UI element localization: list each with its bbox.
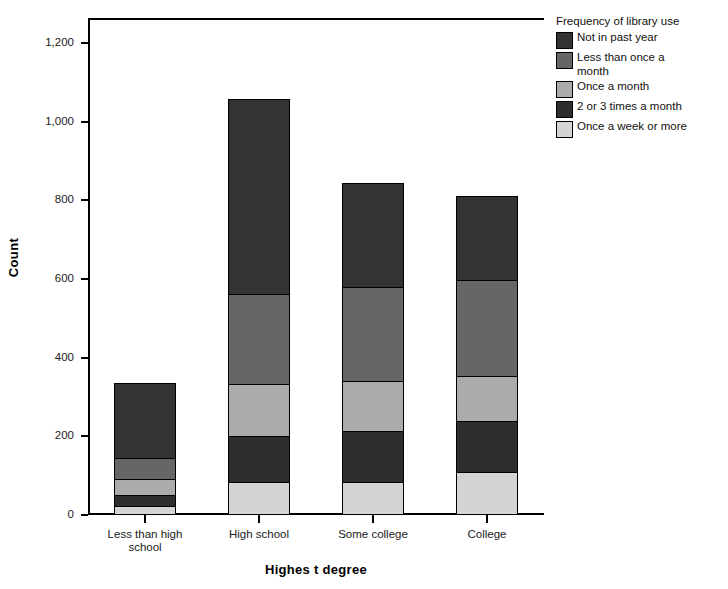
y-axis-tick-label: 0 [28, 509, 74, 521]
y-axis-tick-label: 200 [28, 431, 74, 443]
y-axis-tick-mark [81, 199, 88, 201]
bar-segment [114, 383, 176, 460]
y-axis-label-wrap: Count [0, 0, 40, 530]
x-axis-tick-label: Less than high school [99, 528, 191, 554]
legend-item: Not in past year [556, 31, 726, 49]
x-axis-tick-mark [372, 515, 374, 523]
x-axis-tick-label: High school [199, 528, 319, 541]
bar-segment [456, 421, 518, 473]
legend-item: 2 or 3 times a month [556, 100, 726, 118]
legend-item: Once a week or more [556, 120, 726, 138]
bar-segment [114, 458, 176, 481]
bar-less-than-high-school [114, 384, 176, 515]
bar-segment [228, 293, 290, 385]
legend-item-label: 2 or 3 times a month [577, 100, 682, 114]
bar-segment [114, 479, 176, 496]
bar-segment [228, 384, 290, 437]
bar-segment [342, 183, 404, 288]
y-axis-tick-label: 800 [28, 195, 74, 207]
x-axis-tick-label: Some college [313, 528, 433, 541]
bar-segment [342, 431, 404, 484]
legend-swatch-icon [556, 32, 573, 49]
legend-title: Frequency of library use [556, 14, 726, 28]
x-axis-tick-mark [144, 515, 146, 523]
stacked-bar-chart: Count 1,2001,0008006004002000 Less than … [0, 0, 728, 589]
x-axis-tick-mark [258, 515, 260, 523]
x-axis-tick-label: College [427, 528, 547, 541]
legend-item-label: Once a week or more [577, 120, 687, 134]
bar-segment [342, 381, 404, 432]
legend-item-label: Once a month [577, 80, 649, 94]
bar-segment [228, 436, 290, 484]
bar-segment [456, 471, 518, 515]
legend-item: Less than once a month [556, 51, 726, 78]
legend-item: Once a month [556, 80, 726, 98]
y-axis-tick-mark [81, 435, 88, 437]
bar-high-school [228, 100, 290, 515]
bar-segment [456, 375, 518, 422]
y-axis-tick-mark [81, 278, 88, 280]
bar-segment [114, 495, 176, 508]
x-axis-title: Highes t degree [88, 562, 544, 577]
legend-swatch-icon [556, 81, 573, 98]
y-axis-tick-mark [81, 357, 88, 359]
legend-item-label: Not in past year [577, 31, 658, 45]
y-axis-tick-label: 400 [28, 352, 74, 364]
legend-swatch-icon [556, 101, 573, 118]
y-axis-tick-mark [81, 42, 88, 44]
y-axis-title: Count [6, 188, 21, 328]
bar-segment [228, 99, 290, 295]
legend: Frequency of library use Not in past yea… [556, 14, 726, 140]
bar-college [456, 197, 518, 515]
y-axis-tick-mark [81, 121, 88, 123]
legend-swatch-icon [556, 121, 573, 138]
bar-segment [342, 287, 404, 383]
y-axis-tick-label: 1,000 [28, 116, 74, 128]
bar-some-college [342, 185, 404, 515]
bar-segment [456, 279, 518, 376]
bar-segment [456, 196, 518, 281]
legend-swatch-icon [556, 52, 573, 69]
legend-item-label: Less than once a month [577, 51, 687, 78]
y-axis-tick-mark [81, 514, 88, 516]
y-axis-tick-label: 1,200 [28, 37, 74, 49]
legend-items: Not in past yearLess than once a monthOn… [556, 31, 726, 138]
bar-segment [342, 482, 404, 515]
bar-segment [228, 482, 290, 515]
bars-layer [88, 18, 544, 515]
y-axis-tick-label: 600 [28, 273, 74, 285]
x-axis-tick-mark [486, 515, 488, 523]
